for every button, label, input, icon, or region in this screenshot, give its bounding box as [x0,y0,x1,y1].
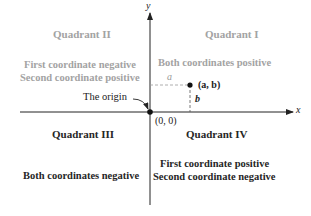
quadrant-ii-title: Quadrant II [53,28,111,41]
quadrant-iv-desc-line1: First coordinate positive [160,157,269,170]
x-axis-label: x [296,104,300,115]
point-b-label: b [195,93,200,104]
quadrant-ii-desc-line1: First coordinate negative [24,58,136,71]
origin-marker [147,109,153,115]
origin-callout-arrow [133,99,148,109]
quadrant-iii-desc: Both coordinates negative [23,169,139,182]
origin-callout-label: The origin [83,91,127,102]
point-a-b-marker [187,82,192,87]
quadrant-i-title: Quadrant I [205,28,259,41]
point-label: (a, b) [198,79,220,90]
quadrant-iv-desc-line2: Second coordinate negative [153,170,276,183]
quadrant-iv-title: Quadrant IV [186,128,247,141]
quadrant-i-desc: Both coordinates positive [158,56,271,69]
quadrant-ii-desc-line2: Second coordinate positive [20,71,140,84]
origin-label: (0, 0) [155,115,177,126]
quadrant-iii-title: Quadrant III [52,128,114,141]
coordinate-plane-diagram: y x (0, 0) The origin (a, b) a b Quadran… [0,0,311,216]
point-a-label: a [167,71,172,82]
axes-graphic [0,0,311,216]
y-axis-label: y [146,0,150,11]
